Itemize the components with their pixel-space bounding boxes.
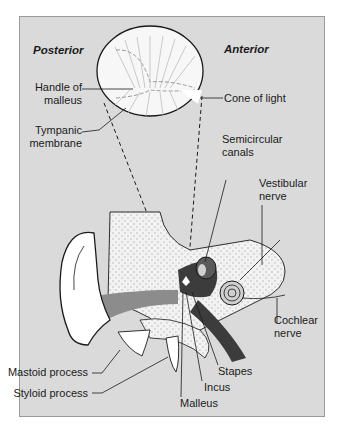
anterior-label: Anterior — [224, 43, 269, 56]
mastoid-process — [118, 330, 150, 356]
styloid-process — [166, 336, 179, 372]
handle-of-malleus-label: Handle of malleus — [35, 81, 82, 107]
tympanic-membrane-label: Tympanic membrane — [29, 124, 82, 150]
vestibular-nerve-label: Vestibular nerve — [259, 177, 307, 203]
tympanic-membrane-inset — [97, 26, 203, 116]
cochlear-nerve-label: Cochlear nerve — [274, 314, 318, 340]
incus-label: Incus — [204, 381, 230, 394]
styloid-process-label: Styloid process — [13, 387, 88, 400]
posterior-label: Posterior — [33, 44, 84, 57]
cochlea — [220, 281, 244, 305]
semicircular-canals-label: Semicircular canals — [222, 133, 283, 159]
malleus-label: Malleus — [180, 397, 218, 410]
stapes-label: Stapes — [218, 365, 252, 378]
mastoid-process-label: Mastoid process — [8, 366, 88, 379]
cone-of-light-label: Cone of light — [224, 92, 286, 105]
auricle — [60, 232, 110, 345]
